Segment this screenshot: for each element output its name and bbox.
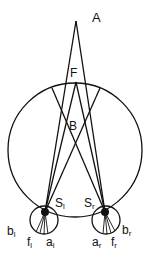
line-right-to-F	[76, 82, 105, 212]
label-a-left: al	[46, 235, 55, 250]
right-nodal-point	[101, 208, 109, 216]
horopter-circle	[8, 83, 142, 217]
binocular-diagram: A F B Sl Sr bl fl al ar fr br	[0, 0, 148, 260]
label-a-right: ar	[92, 235, 102, 250]
label-S-left: Sl	[55, 196, 65, 211]
label-f-right: fr	[111, 235, 117, 250]
line-left-to-A	[45, 21, 76, 212]
label-B: B	[69, 119, 77, 133]
label-b-right: br	[122, 223, 132, 238]
label-S-right: Sr	[84, 196, 95, 211]
label-A: A	[92, 10, 101, 25]
left-nodal-point	[41, 208, 49, 216]
label-b-left: bl	[7, 224, 16, 239]
line-right-to-A	[76, 21, 105, 212]
line-left-to-F	[45, 82, 76, 212]
label-f-left: fl	[27, 235, 32, 250]
label-F: F	[70, 66, 77, 80]
